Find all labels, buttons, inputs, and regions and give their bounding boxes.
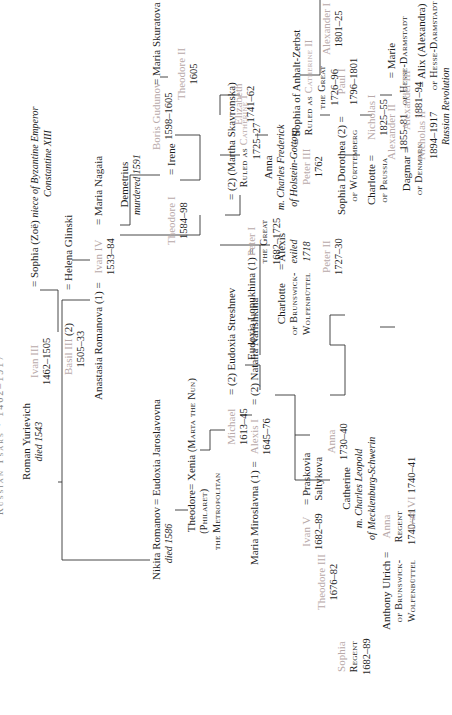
node-anthony-ulrich: Anthony Ulrich =of Brunswick-Wolfenbütte… <box>380 552 418 630</box>
node-maria-nagaia: = Maria Nagaia (7) <box>92 156 104 225</box>
node-alexis-exiled: = Alexisexiled1718 <box>275 233 313 270</box>
node-eudoxia-s: = (2) Eudoxia Streshnev <box>225 288 237 395</box>
node-praskovia: = PraskoviaSaltykova <box>300 453 324 505</box>
node-ivan5: Ivan V1682–89 <box>300 513 325 550</box>
node-boris: Boris Gudunov1598–1605 <box>150 82 175 150</box>
node-sophia-dorothea: Sophia Dorothea (2) =of Württemberg <box>335 116 360 215</box>
node-elizabeth: Elizabeth1741–62 <box>232 83 257 125</box>
node-alexander1: Alexander I1801–25 <box>320 3 345 55</box>
node-roman: Roman Yurievichdied 1543 <box>20 403 45 480</box>
node-anastasia: Anastasia Romanova (1) = <box>92 282 104 400</box>
node-alix: = Alix (Alexandra)of Hesse-Darmstadt <box>415 1 440 90</box>
node-helena: = Helena Glinski <box>62 215 74 290</box>
node-theodore3: Theodore III1676–82 <box>315 554 340 610</box>
node-peter3: Peter III1762 <box>300 149 325 185</box>
node-eudoxia-j: = Eudoxia Jaroslavovna <box>150 399 162 505</box>
node-xenia: = Xenia (Marta the Nun) <box>185 378 198 490</box>
node-ivan6: Ivan VI 1740–41 <box>405 457 418 530</box>
revolution-note: Russian Revolution <box>440 68 452 146</box>
node-sophia-regent: SophiaRegent1682–89 <box>335 638 373 675</box>
node-peter2: Peter II1727–30 <box>320 238 345 275</box>
node-paul1: Paul I1796–1801 <box>335 58 360 105</box>
node-ivan3: Ivan III1462–1505 <box>28 338 53 385</box>
node-eudoxia-l: Eudoxia Lopukhina (1) = <box>245 248 257 360</box>
node-theodore2: Theodore II1605 <box>175 48 200 100</box>
node-basil3: Basil III (2)1505–33 <box>62 323 87 375</box>
node-maria-miroslavna: Maria Miroslavna (1) = <box>248 461 260 565</box>
node-nicholas2: Nicholas II1894–1917 <box>415 111 440 160</box>
node-alexis1: Alexis I1645–76 <box>248 418 273 455</box>
node-demetrius: Demetriusmurdered 1591 <box>118 154 143 215</box>
node-charlotte-p: Charlotte =of Prussia <box>365 155 390 205</box>
node-maria-skuratova: = Maria Skuratova <box>150 2 162 85</box>
node-ivan4: Ivan IV1533–84 <box>92 238 117 275</box>
node-charlotte-b: Charlotteof Brunswick-Wolfenbüttel <box>275 272 313 335</box>
node-theodore1: Theodore I1584–98 <box>165 196 190 245</box>
node-catherine-m: Catherinem. Charles Leopoldof Mecklenbur… <box>340 437 378 540</box>
node-michael: Michael1613–45 <box>225 408 250 445</box>
node-sophia-zoe: = Sophia (Zoë) niece of Byzantine Empero… <box>28 107 54 287</box>
node-nikita: Nikita Romanovdied 1586 <box>150 507 175 580</box>
